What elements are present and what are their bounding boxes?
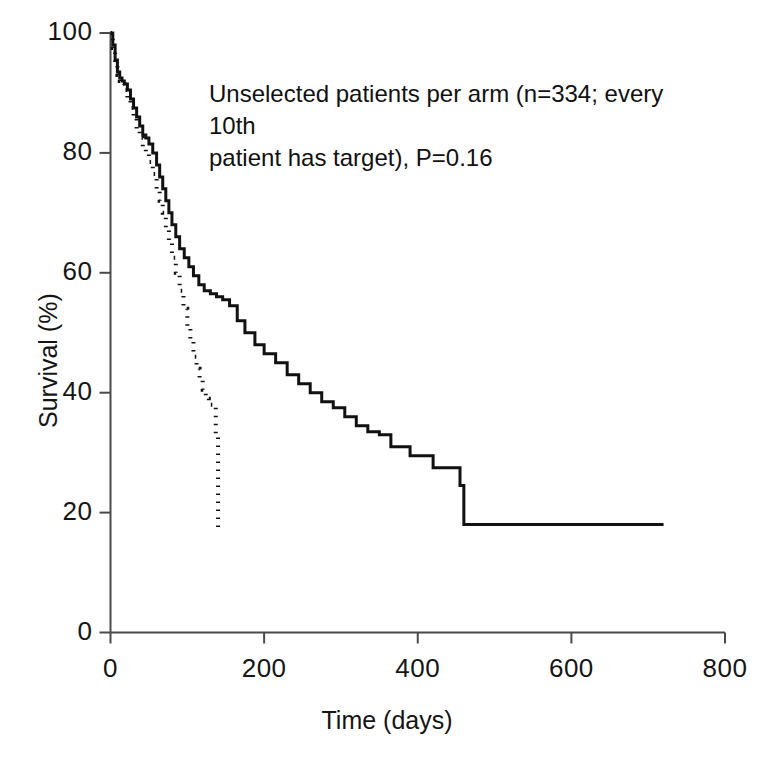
y-tick-label: 100: [48, 16, 93, 47]
annotation-line-1: Unselected patients per arm (n=334; ever…: [209, 78, 679, 142]
x-tick-label: 600: [531, 653, 611, 684]
study-annotation: Unselected patients per arm (n=334; ever…: [209, 78, 679, 174]
y-tick-label: 20: [63, 496, 93, 527]
annotation-line-2: patient has target), P=0.16: [209, 142, 679, 174]
x-axis-title: Time (days): [0, 706, 774, 735]
y-axis-title: Survival (%): [34, 293, 63, 428]
x-tick-label: 800: [685, 653, 765, 684]
survival-chart-figure: 020406080100 0200400600800 Survival (%) …: [0, 0, 774, 771]
x-tick-label: 200: [224, 653, 304, 684]
y-axis-ticks: [100, 33, 111, 633]
x-axis-ticks: [111, 633, 726, 644]
x-tick-label: 400: [378, 653, 458, 684]
y-tick-label: 0: [78, 616, 93, 647]
x-tick-label: 0: [71, 653, 151, 684]
y-tick-label: 40: [63, 376, 93, 407]
y-tick-label: 80: [63, 136, 93, 167]
y-tick-label: 60: [63, 256, 93, 287]
